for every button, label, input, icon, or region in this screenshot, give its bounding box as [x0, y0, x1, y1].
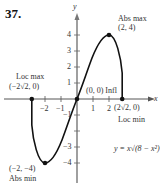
equation-label: y = x√(8 − x²)	[114, 144, 160, 153]
y-tick-3: 3	[67, 46, 71, 55]
y-tick-1: 1	[67, 78, 71, 87]
y-tick-neg3: −3	[63, 142, 72, 151]
loc-min-coords: (2√2, 0)	[114, 103, 140, 112]
y-tick-neg4: −4	[63, 158, 72, 167]
y-tick-2: 2	[67, 62, 71, 71]
x-axis-label: x	[154, 94, 158, 103]
loc-min-point	[120, 97, 125, 102]
abs-min-coords: (−2, −4)	[9, 164, 35, 173]
y-axis-arrow-icon	[75, 13, 80, 20]
loc-max-coords: (−2√2, 0)	[9, 82, 39, 91]
loc-min-label: Loc min	[118, 115, 145, 124]
y-axis-label: y	[73, 2, 77, 11]
x-tick-neg2: −2	[40, 104, 49, 113]
inflection-label: (0, 0) Infl	[86, 86, 117, 95]
abs-min-label: Abs min	[9, 174, 36, 183]
x-tick-neg1: −1	[56, 104, 65, 113]
inflection-point	[75, 97, 80, 102]
x-tick-2: 2	[107, 104, 111, 113]
loc-max-label: Loc max	[16, 72, 44, 81]
x-tick-1: 1	[91, 104, 95, 113]
graph-canvas	[0, 0, 160, 189]
abs-min-point	[43, 161, 48, 166]
abs-max-label: Abs max	[118, 14, 147, 23]
abs-max-coords: (2, 4)	[118, 23, 135, 32]
figure: 37.	[0, 0, 160, 189]
y-tick-4: 4	[67, 30, 71, 39]
loc-max-point	[30, 97, 35, 102]
abs-max-point	[107, 33, 112, 38]
